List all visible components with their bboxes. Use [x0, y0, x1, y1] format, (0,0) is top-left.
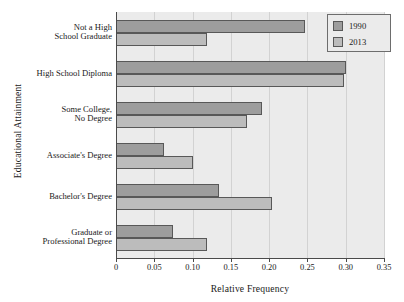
- x-axis-line: [116, 258, 385, 259]
- y-axis-label-line: School Graduate: [2, 32, 112, 42]
- y-axis-label: High School Diploma: [2, 69, 112, 79]
- bar-1990: [116, 143, 164, 156]
- legend: 19902013: [327, 14, 391, 52]
- x-axis-tick: [384, 258, 385, 262]
- x-axis-tick-label: 0.25: [287, 263, 327, 272]
- bar-1990: [116, 184, 219, 197]
- x-axis-tick: [307, 258, 308, 262]
- x-axis-tick: [116, 258, 117, 262]
- bar-2013: [116, 33, 207, 46]
- x-axis-tick-label: 0.15: [211, 263, 251, 272]
- x-axis-tick-label: 0.20: [249, 263, 289, 272]
- gridline: [154, 12, 155, 258]
- bar-1990: [116, 102, 262, 115]
- x-axis-tick-label: 0.35: [364, 263, 404, 272]
- y-axis-label: Bachelor's Degree: [2, 192, 112, 202]
- y-axis-line: [116, 12, 117, 259]
- x-axis-tick: [193, 258, 194, 262]
- legend-item: 1990: [333, 19, 390, 33]
- bar-chart-figure: Educational Attainment Not a HighSchool …: [0, 0, 404, 302]
- legend-label: 2013: [349, 37, 366, 47]
- bar-2013: [116, 115, 247, 128]
- y-axis-label-line: Associate's Degree: [2, 151, 112, 161]
- gridline: [307, 12, 308, 258]
- y-axis-label-line: No Degree: [2, 114, 112, 124]
- x-axis-tick: [346, 258, 347, 262]
- x-axis-tick-label: 0.10: [173, 263, 213, 272]
- y-axis-label-line: Bachelor's Degree: [2, 192, 112, 202]
- bar-group: [116, 143, 384, 169]
- y-axis-label: Graduate orProfessional Degree: [2, 228, 112, 248]
- legend-swatch-icon: [333, 21, 343, 31]
- legend-label: 1990: [349, 21, 366, 31]
- bar-group: [116, 184, 384, 210]
- legend-item: 2013: [333, 35, 390, 49]
- gridline: [231, 12, 232, 258]
- bar-2013: [116, 74, 344, 87]
- bar-group: [116, 61, 384, 87]
- x-axis-tick: [154, 258, 155, 262]
- y-axis-label: Not a HighSchool Graduate: [2, 23, 112, 43]
- y-axis-category-labels: Not a HighSchool GraduateHigh School Dip…: [2, 12, 114, 258]
- y-axis-label: Some College,No Degree: [2, 105, 112, 125]
- x-axis-tick: [269, 258, 270, 262]
- gridline: [193, 12, 194, 258]
- bar-2013: [116, 238, 207, 251]
- x-axis-tick-label: 0: [96, 263, 136, 272]
- x-axis-title: Relative Frequency: [116, 283, 384, 294]
- y-axis-label-line: High School Diploma: [2, 69, 112, 79]
- bar-2013: [116, 156, 193, 169]
- x-axis-tick: [231, 258, 232, 262]
- bar-2013: [116, 197, 272, 210]
- bar-1990: [116, 20, 305, 33]
- bar-group: [116, 225, 384, 251]
- bar-group: [116, 102, 384, 128]
- bar-1990: [116, 225, 173, 238]
- y-axis-label: Associate's Degree: [2, 151, 112, 161]
- y-axis-label-line: Professional Degree: [2, 237, 112, 247]
- x-axis-tick-label: 0.30: [326, 263, 366, 272]
- gridline: [269, 12, 270, 258]
- legend-swatch-icon: [333, 37, 343, 47]
- bar-1990: [116, 61, 346, 74]
- x-axis-tick-label: 0.05: [134, 263, 174, 272]
